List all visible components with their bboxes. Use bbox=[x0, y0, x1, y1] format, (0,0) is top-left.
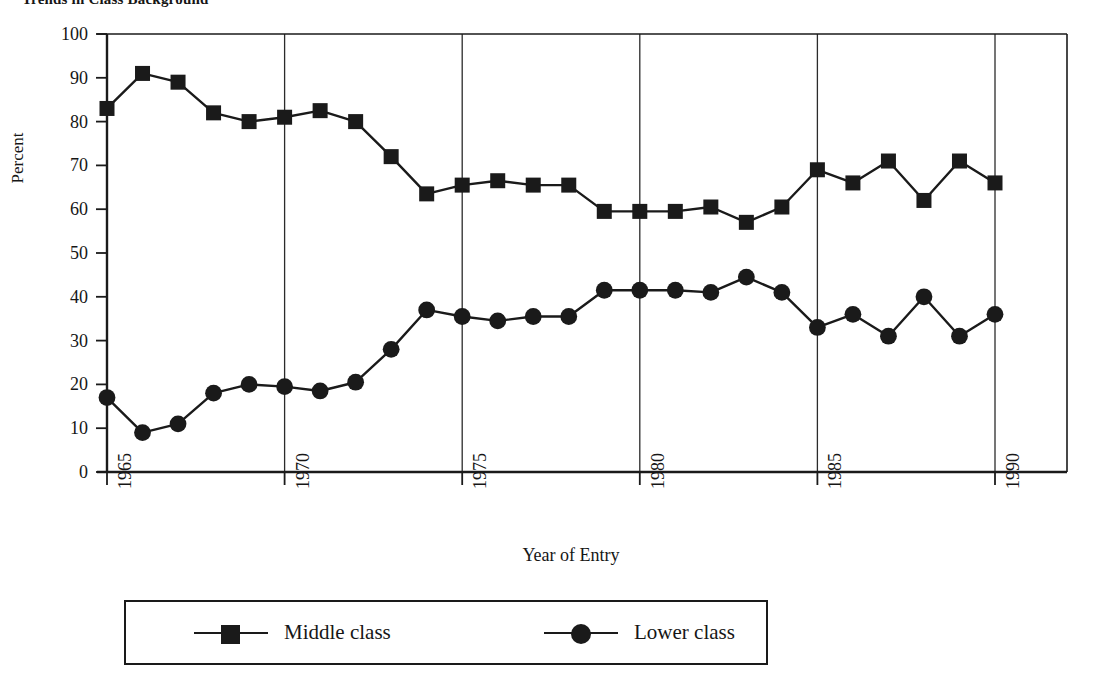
data-point-0-1975 bbox=[455, 178, 470, 193]
data-point-1-1988 bbox=[916, 288, 933, 305]
data-point-0-1977 bbox=[526, 178, 541, 193]
data-point-1-1967 bbox=[170, 415, 187, 432]
plot-area bbox=[0, 0, 1114, 560]
x-axis-title-text: Year of Entry bbox=[522, 545, 619, 565]
data-point-1-1977 bbox=[525, 308, 542, 325]
data-point-1-1978 bbox=[560, 308, 577, 325]
y-tick-marks bbox=[96, 34, 107, 472]
legend-item-lower-class: Lower class bbox=[544, 620, 735, 645]
data-point-0-1972 bbox=[348, 114, 363, 129]
y-tick-label-40: 40 bbox=[34, 288, 88, 306]
data-point-1-1966 bbox=[134, 424, 151, 441]
data-point-1-1989 bbox=[951, 328, 968, 345]
series-lines bbox=[107, 73, 995, 432]
data-point-0-1980 bbox=[632, 204, 647, 219]
data-point-0-1968 bbox=[206, 105, 221, 120]
square-marker-icon bbox=[194, 621, 268, 645]
y-tick-label-90: 90 bbox=[34, 69, 88, 87]
x-tick-label-1965: 1965 bbox=[116, 453, 134, 489]
data-point-1-1973 bbox=[383, 341, 400, 358]
data-point-0-1971 bbox=[313, 103, 328, 118]
data-point-1-1972 bbox=[347, 374, 364, 391]
data-point-0-1969 bbox=[242, 114, 257, 129]
data-point-1-1982 bbox=[702, 284, 719, 301]
data-point-1-1986 bbox=[845, 306, 862, 323]
x-tick-label-1970: 1970 bbox=[294, 453, 312, 489]
data-point-0-1989 bbox=[952, 154, 967, 169]
data-point-0-1988 bbox=[916, 193, 931, 208]
y-tick-label-100: 100 bbox=[34, 25, 88, 43]
data-point-1-1976 bbox=[489, 312, 506, 329]
data-point-0-1979 bbox=[597, 204, 612, 219]
data-point-0-1981 bbox=[668, 204, 683, 219]
data-point-1-1990 bbox=[987, 306, 1004, 323]
data-point-1-1984 bbox=[773, 284, 790, 301]
series-markers bbox=[99, 66, 1004, 441]
data-point-0-1987 bbox=[881, 154, 896, 169]
x-axis-title: Year of Entry bbox=[0, 545, 1114, 566]
axis-lines bbox=[97, 34, 1067, 472]
data-point-1-1985 bbox=[809, 319, 826, 336]
x-tick-marks bbox=[107, 472, 995, 485]
data-point-0-1978 bbox=[561, 178, 576, 193]
data-point-0-1970 bbox=[277, 110, 292, 125]
data-point-0-1966 bbox=[135, 66, 150, 81]
data-point-0-1982 bbox=[703, 200, 718, 215]
x-tick-label-1990: 1990 bbox=[1004, 453, 1022, 489]
data-point-0-1990 bbox=[988, 175, 1003, 190]
x-tick-label-1975: 1975 bbox=[471, 453, 489, 489]
data-point-0-1986 bbox=[845, 175, 860, 190]
vertical-gridlines bbox=[285, 34, 995, 472]
legend-label-middle-class: Middle class bbox=[284, 620, 391, 645]
data-point-0-1976 bbox=[490, 173, 505, 188]
data-point-1-1979 bbox=[596, 282, 613, 299]
data-point-1-1968 bbox=[205, 385, 222, 402]
data-point-0-1974 bbox=[419, 186, 434, 201]
y-tick-label-10: 10 bbox=[34, 419, 88, 437]
data-point-0-1973 bbox=[384, 149, 399, 164]
y-tick-label-0: 0 bbox=[34, 463, 88, 481]
chart-figure: Trends in Class Background Percent 01020… bbox=[0, 0, 1114, 687]
data-point-1-1965 bbox=[99, 389, 116, 406]
x-tick-label-1985: 1985 bbox=[826, 453, 844, 489]
x-tick-label-1980: 1980 bbox=[649, 453, 667, 489]
data-point-1-1983 bbox=[738, 269, 755, 286]
legend-label-lower-class: Lower class bbox=[634, 620, 735, 645]
data-point-1-1975 bbox=[454, 308, 471, 325]
circle-marker-icon bbox=[544, 621, 618, 645]
data-point-0-1965 bbox=[100, 101, 115, 116]
data-point-1-1980 bbox=[631, 282, 648, 299]
data-point-0-1967 bbox=[171, 75, 186, 90]
y-tick-label-30: 30 bbox=[34, 332, 88, 350]
data-point-1-1981 bbox=[667, 282, 684, 299]
y-tick-label-70: 70 bbox=[34, 156, 88, 174]
y-tick-label-50: 50 bbox=[34, 244, 88, 262]
data-point-1-1987 bbox=[880, 328, 897, 345]
y-tick-label-60: 60 bbox=[34, 200, 88, 218]
y-tick-label-20: 20 bbox=[34, 375, 88, 393]
data-point-1-1969 bbox=[241, 376, 258, 393]
data-point-0-1983 bbox=[739, 215, 754, 230]
y-tick-label-80: 80 bbox=[34, 113, 88, 131]
data-point-1-1971 bbox=[312, 383, 329, 400]
data-point-1-1970 bbox=[276, 378, 293, 395]
chart-legend: Middle class Lower class bbox=[124, 600, 768, 665]
data-point-0-1984 bbox=[774, 200, 789, 215]
data-point-1-1974 bbox=[418, 302, 435, 319]
legend-item-middle-class: Middle class bbox=[194, 620, 391, 645]
data-point-0-1985 bbox=[810, 162, 825, 177]
